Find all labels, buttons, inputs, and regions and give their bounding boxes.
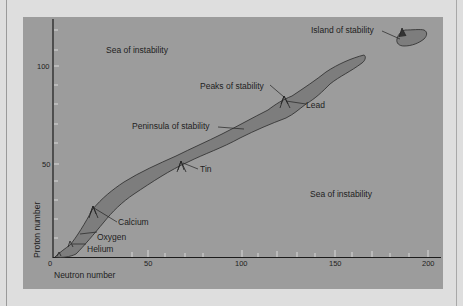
sea-of-instability-lower-label: Sea of instability — [310, 189, 373, 199]
y-tick-50: 50 — [42, 160, 50, 169]
y-tick-100: 100 — [37, 62, 50, 71]
oxygen-label: Oxygen — [97, 232, 127, 242]
peninsula-of-stability-label: Peninsula of stability — [132, 121, 210, 131]
x-axis-title: Neutron number — [54, 270, 116, 280]
x-tick-50: 50 — [144, 259, 152, 268]
y-ticks — [54, 30, 59, 238]
x-tick-150: 150 — [329, 259, 342, 268]
x-ticks — [132, 250, 428, 257]
sea-of-instability-upper-label: Sea of instability — [106, 45, 169, 55]
nuclide-stability-diagram: Sea of instability Sea of instability Is… — [0, 0, 463, 306]
tin-label: Tin — [200, 164, 212, 174]
helium-label: Helium — [87, 244, 113, 254]
island-of-stability-label: Island of stability — [311, 25, 375, 35]
y-axis-title: Proton number — [32, 202, 42, 258]
x-tick-200: 200 — [422, 259, 435, 268]
peaks-of-stability-label: Peaks of stability — [200, 81, 265, 91]
calcium-label: Calcium — [118, 217, 149, 227]
x-tick-100: 100 — [235, 259, 248, 268]
x-tick-0: 0 — [48, 259, 52, 268]
lead-label: Lead — [306, 100, 325, 110]
